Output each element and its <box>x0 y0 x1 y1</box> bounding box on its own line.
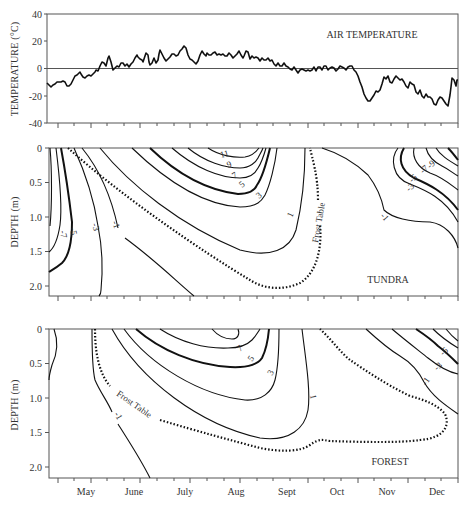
tundra-ytick-0: 0 <box>37 143 42 154</box>
forest-label-7: 7 <box>235 343 245 354</box>
forest-ytick-1-5: 1.5 <box>30 427 43 438</box>
x-axis-months: May June July Aug Sept Oct Nov Dec <box>77 486 446 497</box>
tundra-panel: 0 0.5 1.0 1.5 2.0 DEPTH (m) TUNDRA <box>9 143 458 301</box>
air-temperature-panel: 40 20 0 -20 -40 TEMPERATURE (°C) AIR TEM… <box>9 9 458 129</box>
forest-contour-9 <box>212 329 239 339</box>
forest-panel-label: FOREST <box>371 456 408 467</box>
month-dec: Dec <box>429 486 446 497</box>
air-temp-ytick-0: 0 <box>37 63 42 74</box>
forest-label-1: 1 <box>308 394 319 400</box>
air-temp-y-axis-title: TEMPERATURE (°C) <box>9 22 21 117</box>
forest-contour-neg1-right <box>366 329 458 414</box>
forest-label-5: 5 <box>245 353 256 363</box>
forest-contour-neg9-right <box>446 329 458 341</box>
forest-label-neg3-right: -3 <box>432 360 445 373</box>
month-oct: Oct <box>330 486 345 497</box>
month-july: July <box>177 486 194 497</box>
air-temp-ytick-neg40: -40 <box>29 118 42 129</box>
tundra-contour-3 <box>132 148 277 207</box>
forest-label-neg1-left: -1 <box>112 410 124 421</box>
tundra-label-neg1: -1 <box>110 219 122 229</box>
tundra-label-9: 9 <box>225 159 233 170</box>
forest-contour-left-edge <box>49 329 57 380</box>
tundra-label-neg7: -7 <box>58 230 69 240</box>
air-temp-ytick-40: 40 <box>32 9 42 20</box>
month-sept: Sept <box>278 486 296 497</box>
forest-label-neg1-right: -1 <box>419 375 431 387</box>
forest-ytick-1-0: 1.0 <box>30 393 43 404</box>
forest-ytick-0: 0 <box>37 324 42 335</box>
forest-y-axis-title: DEPTH (m) <box>9 380 21 431</box>
tundra-frost-table-label: Frost Table <box>310 202 327 244</box>
forest-y-ticks <box>45 329 49 467</box>
tundra-contour-11 <box>208 148 259 157</box>
tundra-ytick-0-5: 0.5 <box>30 177 43 188</box>
month-nov: Nov <box>378 486 395 497</box>
tundra-frost-table <box>68 148 320 288</box>
tundra-ytick-1-5: 1.5 <box>30 246 43 257</box>
tundra-ytick-1-0: 1.0 <box>30 212 43 223</box>
tundra-y-axis-title: DEPTH (m) <box>9 197 21 248</box>
tundra-label-11: 11 <box>219 148 230 160</box>
month-aug: Aug <box>227 486 244 497</box>
tundra-x-ticks <box>58 296 458 301</box>
tundra-y-ticks <box>45 148 49 286</box>
forest-label-3: 3 <box>265 368 276 377</box>
air-temp-ytick-20: 20 <box>32 36 42 47</box>
tundra-label-5: 5 <box>237 179 247 190</box>
tundra-label-neg1-right: -1 <box>378 211 390 223</box>
figure: 40 20 0 -20 -40 TEMPERATURE (°C) AIR TEM… <box>0 0 474 510</box>
tundra-label-1: 1 <box>285 211 296 219</box>
air-temp-panel-title: AIR TEMPERATURE <box>326 29 417 40</box>
tundra-contour-neg3-right <box>394 148 458 222</box>
tundra-label-7: 7 <box>230 170 239 181</box>
forest-contour-3 <box>124 329 279 400</box>
air-temp-ytick-neg20: -20 <box>29 91 42 102</box>
month-may: May <box>77 486 95 497</box>
forest-contour-labels: 7 5 3 1 -1 -1 -3 -5 Frost Table <box>112 343 450 422</box>
tundra-contour-neg9 <box>50 148 52 226</box>
month-june: June <box>125 486 144 497</box>
forest-x-ticks <box>58 478 458 483</box>
forest-ytick-2-0: 2.0 <box>30 462 43 473</box>
air-temperature-line <box>47 46 458 106</box>
forest-panel: 0 0.5 1.0 1.5 2.0 DEPTH (m) FOREST <box>9 324 458 483</box>
forest-contour-neg5-right <box>416 329 458 364</box>
air-temp-x-ticks <box>58 123 458 128</box>
tundra-contour-neg13-right <box>448 148 458 160</box>
forest-contour-7 <box>160 329 260 348</box>
tundra-contour-labels: 11 9 7 5 3 1 -1 -3 -5 -7 -1 -3 -5 -7 -9 … <box>58 148 437 243</box>
tundra-ytick-2-0: 2.0 <box>30 281 43 292</box>
forest-ytick-0-5: 0.5 <box>30 358 43 369</box>
tundra-label-neg3: -3 <box>90 222 102 232</box>
tundra-panel-label: TUNDRA <box>367 274 409 285</box>
